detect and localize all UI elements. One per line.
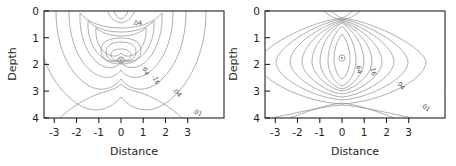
right-xtick-6: 3 [405, 126, 412, 138]
right-ytick-3: 3 [253, 85, 260, 97]
left-xtick-1: -2 [71, 126, 81, 138]
left-contour-lines [36, 11, 206, 118]
right-xtick-1: -2 [292, 126, 302, 138]
left-xtick-0: -3 [49, 126, 59, 138]
left-contour-label-0: .04 [132, 19, 142, 26]
right-xaxis-title: Distance [331, 145, 379, 158]
right-y-ticks [265, 11, 270, 118]
left-xtick-4: 1 [140, 126, 147, 138]
left-contour-label-3: .04 [171, 86, 183, 98]
right-xtick-2: -1 [315, 126, 325, 138]
left-xtick-3: 0 [118, 126, 125, 138]
left-contour-label-4: .01 [192, 107, 204, 118]
left-yaxis-title: Depth [6, 47, 19, 81]
left-y-ticks [44, 11, 49, 118]
right-xtick-5: 2 [383, 126, 390, 138]
right-contour-panel: .64 .16 .04 .01 0 1 2 3 4 [228, 0, 456, 166]
right-xtick-4: 1 [361, 126, 368, 138]
right-source-marker [339, 55, 345, 61]
right-contour-lines [258, 11, 447, 118]
left-ytick-2: 2 [32, 58, 39, 70]
right-ytick-4: 4 [253, 112, 260, 124]
left-xtick-5: 2 [162, 126, 169, 138]
right-contour-label-1: .16 [369, 65, 378, 76]
right-ytick-2: 2 [253, 58, 260, 70]
right-ytick-1: 1 [253, 32, 260, 44]
right-contour-label-2: .04 [395, 79, 406, 91]
right-ytick-0: 0 [253, 5, 260, 17]
left-ytick-0: 0 [32, 5, 39, 17]
left-xaxis-title: Distance [110, 145, 158, 158]
right-xtick-3: 0 [339, 126, 346, 138]
left-contour-panel: .04 .64 .16 .04 .01 0 1 2 3 4 [0, 0, 228, 166]
left-ytick-4: 4 [32, 112, 39, 124]
left-contour-label-1: .64 [141, 64, 151, 76]
contour-figure: .04 .64 .16 .04 .01 0 1 2 3 4 [0, 0, 456, 166]
left-xtick-2: -1 [94, 126, 104, 138]
left-ytick-1: 1 [32, 32, 39, 44]
left-contour-label-2: .16 [151, 73, 162, 85]
right-xtick-0: -3 [270, 126, 280, 138]
left-x-ticks [54, 118, 187, 123]
right-x-ticks [275, 118, 408, 123]
right-contour-label-0: .64 [355, 63, 364, 74]
left-xtick-6: 3 [184, 126, 191, 138]
right-yaxis-title: Depth [228, 47, 240, 81]
right-plot-svg: .64 .16 .04 .01 0 1 2 3 4 [228, 0, 456, 166]
left-plot-svg: .04 .64 .16 .04 .01 0 1 2 3 4 [0, 0, 228, 166]
left-ytick-3: 3 [32, 85, 39, 97]
right-contour-label-3: .01 [419, 101, 431, 112]
